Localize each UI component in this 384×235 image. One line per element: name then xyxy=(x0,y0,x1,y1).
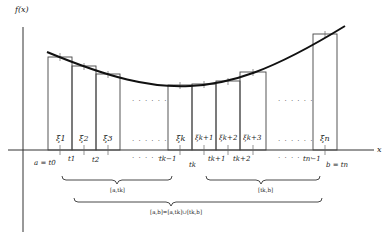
braces xyxy=(62,176,322,206)
ellipsis: · · · · · · xyxy=(132,154,167,162)
xi-label: ξ2 xyxy=(79,135,89,143)
xi-label: ξk+2 xyxy=(219,135,237,142)
t-label: b = tn xyxy=(326,162,348,169)
t-label: t2 xyxy=(92,157,99,164)
ellipsis: · · · · · · xyxy=(132,137,167,145)
xi-label: ξk+1 xyxy=(195,135,213,142)
t-label: a = t0 xyxy=(34,160,56,167)
t-label: tk xyxy=(189,162,196,169)
function-curve xyxy=(47,26,345,86)
xi-label: ξk+3 xyxy=(243,135,261,142)
brace-total xyxy=(74,198,322,206)
xi-label: ξn xyxy=(320,135,330,143)
ellipsis: · · · · · · xyxy=(278,97,313,105)
t-label: tk+2 xyxy=(233,156,250,163)
brace-left-label: [a,tk] xyxy=(110,188,125,194)
brace-left xyxy=(62,176,172,184)
ellipsis: · · · · · · xyxy=(278,154,313,162)
ellipsis: · · · · · · xyxy=(278,137,313,145)
diagram-graphics xyxy=(0,0,384,235)
y-axis-label: f(x) xyxy=(15,6,29,14)
riemann-diagram: f(x) x ξ1 ξ2 ξ3 ξk ξk+1 ξk+2 ξk+3 ξn a =… xyxy=(0,0,384,235)
brace-right-label: [tk,b] xyxy=(258,188,273,194)
ellipsis: · · · · · · xyxy=(132,97,167,105)
riemann-rectangles xyxy=(48,34,337,150)
x-axis-label: x xyxy=(377,146,382,154)
xi-label: ξ1 xyxy=(56,135,66,143)
xi-label: ξk xyxy=(176,135,185,143)
brace-total-label: [a,b]=[a,tk]∪[tk,b] xyxy=(150,210,202,216)
t-label: tk+1 xyxy=(208,156,225,163)
brace-right xyxy=(206,176,320,184)
xi-label: ξ3 xyxy=(103,135,113,143)
t-label: t1 xyxy=(68,156,75,163)
